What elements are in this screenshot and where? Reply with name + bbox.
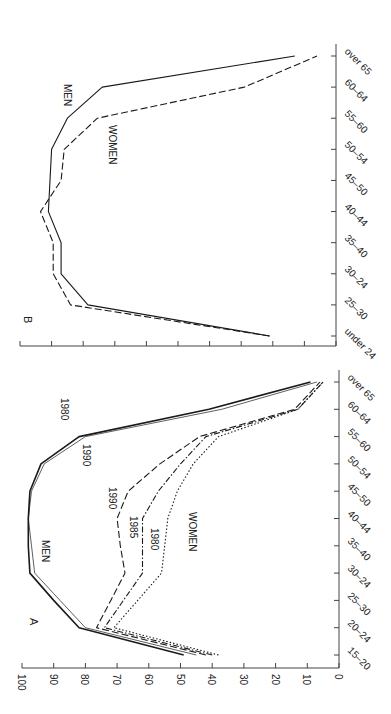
value-tick-label: 20 [270, 674, 281, 686]
annotation-women-a: WOMEN [187, 512, 198, 551]
category-tick-label: 55–60 [346, 426, 374, 454]
series-line [28, 382, 310, 655]
panel-label-b: B [22, 316, 34, 323]
category-tick-label: 40–44 [343, 201, 371, 229]
series-line [41, 56, 318, 336]
value-tick-label: 50 [175, 674, 186, 686]
value-tick-label: 10 [301, 674, 312, 686]
value-tick-label: 0 [333, 674, 344, 680]
annotation-men-b: MEN [62, 84, 73, 106]
value-tick-label: 90 [48, 674, 59, 686]
annotation-women-b: WOMEN [107, 125, 118, 164]
annotation-women-1985: 1985 [128, 516, 139, 539]
category-tick-label: 40–44 [346, 508, 374, 536]
value-tick-label: 70 [111, 674, 122, 686]
category-tick-label: 35–40 [343, 232, 371, 260]
category-tick-label: 25–30 [343, 295, 371, 323]
category-tick-label: 35–40 [346, 535, 374, 563]
category-tick-label: 60–64 [343, 77, 371, 105]
category-tick-label: 50–54 [343, 139, 371, 167]
category-tick-label: 15–20 [346, 645, 374, 673]
annotation-women-1990: 1990 [107, 487, 118, 510]
category-tick-label: 60–64 [346, 399, 374, 427]
annotation-men-1980: 1980 [59, 398, 70, 421]
category-tick-label: 50–54 [346, 454, 374, 482]
annotation-men-a: MEN [40, 540, 51, 562]
category-tick-label: under 24 [343, 326, 379, 362]
annotation-women-1980: 1980 [149, 528, 160, 551]
category-tick-label: over 65 [343, 46, 375, 78]
category-tick-label: over 65 [346, 372, 378, 404]
annotation-men-1990: 1990 [81, 444, 92, 467]
figure-canvas: 010203040506070809010015–2020–2425–3030–… [0, 0, 391, 714]
category-tick-label: 55–60 [343, 108, 371, 136]
series-line [48, 56, 295, 336]
category-tick-label: 30–24 [346, 563, 374, 591]
category-tick-label: 20–24 [346, 617, 374, 645]
value-tick-label: 60 [143, 674, 154, 686]
value-tick-label: 80 [79, 674, 90, 686]
value-tick-label: 30 [238, 674, 249, 686]
category-tick-label: 25–30 [346, 590, 374, 618]
value-tick-label: 100 [16, 674, 27, 691]
panel-label-a: A [28, 618, 40, 626]
value-tick-label: 40 [206, 674, 217, 686]
series-line [28, 382, 317, 655]
category-tick-label: 45–50 [346, 481, 374, 509]
category-tick-label: 45–50 [343, 170, 371, 198]
category-tick-label: 30–24 [343, 263, 371, 291]
